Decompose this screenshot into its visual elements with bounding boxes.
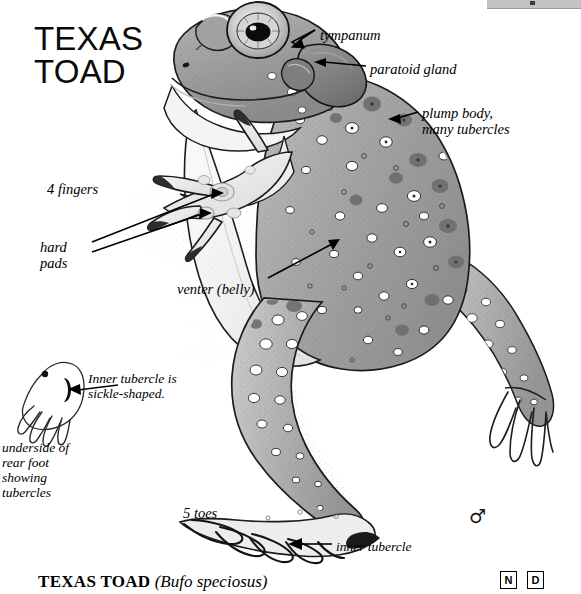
art-tympanum — [282, 59, 315, 91]
label-underside-note: underside of rear foot showing tubercles — [2, 440, 69, 500]
art-foot-inset — [18, 362, 84, 446]
caption-common-name: TEXAS TOAD — [38, 572, 150, 591]
label-4-fingers: 4 fingers — [47, 181, 98, 197]
label-paratoid-gland: paratoid gland — [370, 61, 457, 77]
plate-caption: TEXAS TOAD (Bufo speciosus) — [38, 572, 268, 592]
art-eye — [227, 2, 289, 58]
male-sex-symbol: ♂ — [469, 505, 486, 527]
label-plump-body: plump body, many tubercles — [422, 105, 510, 137]
label-5-toes: 5 toes — [183, 505, 217, 521]
code-box-n[interactable]: N — [500, 571, 517, 589]
label-hard-pads: hard pads — [40, 239, 67, 271]
illustration-plate: TEXAS TOAD tympanum paratoid gland plump… — [0, 0, 581, 594]
page-title: TEXAS TOAD — [34, 22, 143, 88]
label-inner-tubercle: inner tubercle — [336, 539, 412, 554]
art-inset-outer-tubercle — [42, 371, 48, 377]
label-inner-tubercle-note: Inner tubercle is sickle-shaped. — [88, 371, 177, 401]
label-venter: venter (belly) — [177, 281, 255, 297]
label-tympanum: tympanum — [320, 27, 380, 43]
caption-scientific-name: (Bufo speciosus) — [155, 572, 268, 591]
code-box-d[interactable]: D — [527, 571, 544, 589]
